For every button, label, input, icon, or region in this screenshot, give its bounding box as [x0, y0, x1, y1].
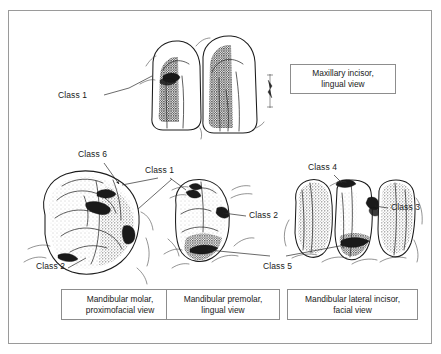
callout-class4: Class 4 [308, 163, 337, 172]
caption-maxillary-line1: Maxillary incisor, [312, 68, 373, 78]
caption-premolar-line2: lingual view [201, 305, 244, 315]
caption-maxillary-incisor: Maxillary incisor, lingual view [290, 64, 396, 94]
caption-mandibular-molar: Mandibular molar, proximofacial view [61, 289, 179, 320]
callout-class5: Class 5 [263, 262, 292, 271]
caption-mandibular-premolar: Mandibular premolar, lingual view [166, 289, 280, 320]
caption-maxillary-line2: lingual view [321, 79, 364, 89]
caption-molar-line1: Mandibular molar, [87, 294, 154, 304]
caption-incisor-line2: facial view [333, 305, 372, 315]
callout-top-class1: Class 1 [58, 91, 87, 100]
callout-class2-molar: Class 2 [36, 262, 65, 271]
caption-molar-line2: proximofacial view [86, 305, 154, 315]
caries-classification-figure: Class 1 Class 6 Class 1 Class 2 Class 2 … [0, 0, 441, 354]
caption-mandibular-lateral-incisor: Mandibular lateral incisor, facial view [287, 289, 418, 320]
caption-premolar-line1: Mandibular premolar, [184, 294, 263, 304]
callout-mid-class1: Class 1 [145, 166, 174, 175]
callout-class2-premolar: Class 2 [249, 211, 278, 220]
callout-class3: Class 3 [391, 203, 420, 212]
callout-class6: Class 6 [78, 150, 107, 159]
caption-incisor-line1: Mandibular lateral incisor, [305, 294, 400, 304]
